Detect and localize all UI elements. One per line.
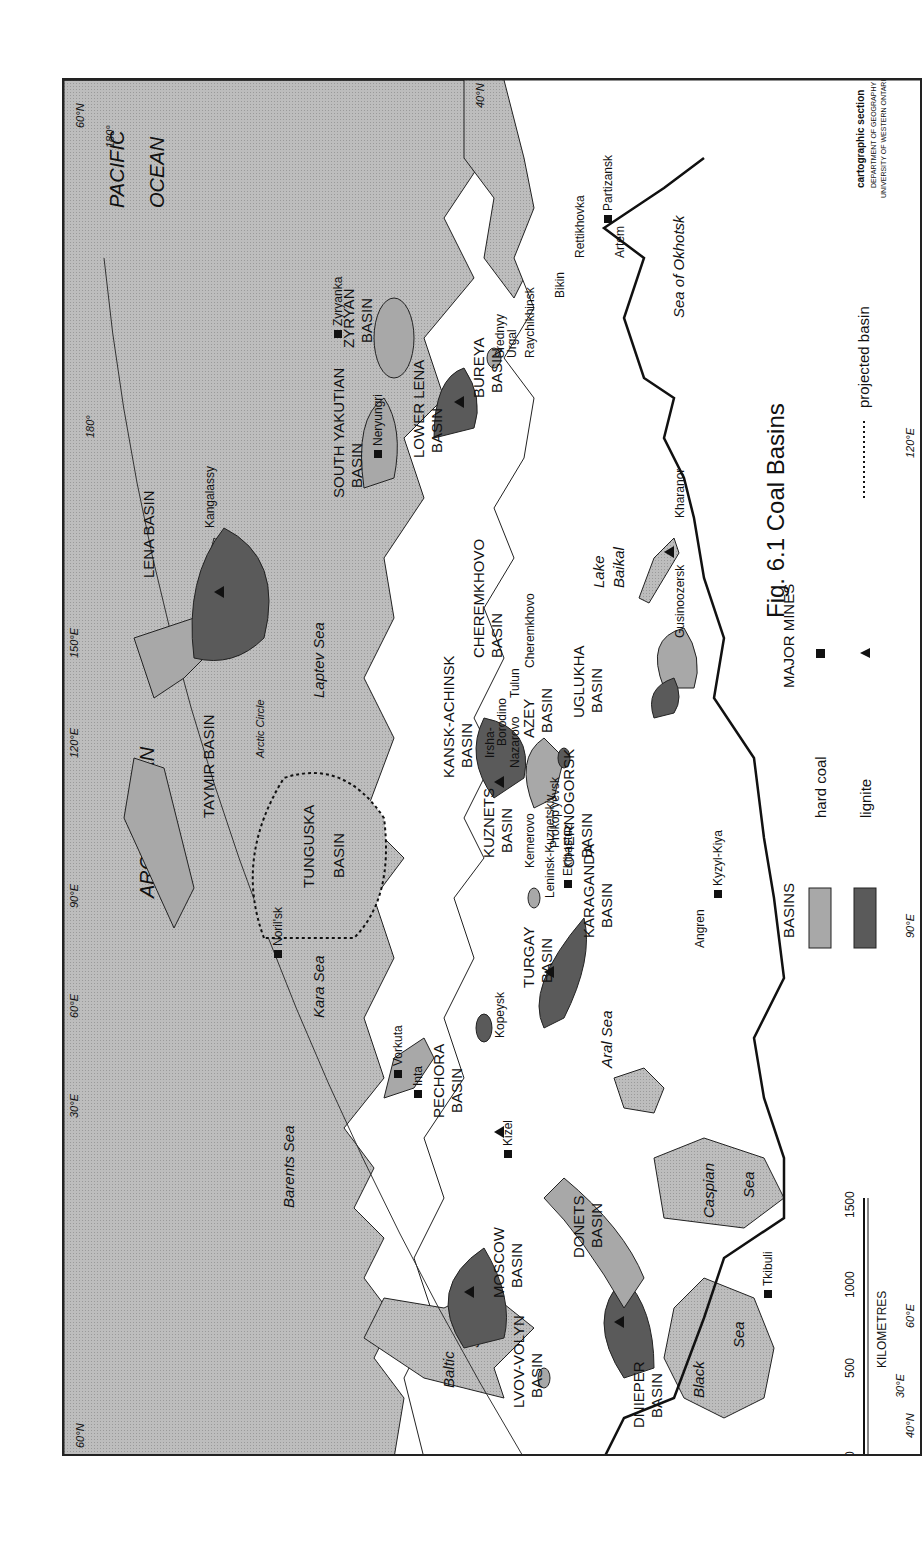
legend-basins-heading: BASINS (780, 883, 797, 938)
basin-label-lena: LENA BASIN (140, 490, 157, 578)
mine-ekibastuz: Ekibastuz (561, 824, 575, 876)
basin-label-kansk-2: BASIN (458, 723, 475, 768)
basin-label-cheremkhovo: CHEREMKHOVO (470, 539, 487, 658)
mine-artem: Artem (613, 226, 627, 258)
credit-line-1: cartographic section (855, 90, 866, 188)
mine-angren: Angren (693, 909, 707, 948)
legend-mines-heading: MAJOR MINES (780, 584, 797, 688)
map-canvas: PACIFIC OCEAN ARCTIC OCEAN Barents Sea K… (64, 80, 922, 1456)
credit-line-2: DEPARTMENT OF GEOGRAPHY (870, 81, 877, 188)
basin-label-uglukha-2: BASIN (588, 668, 605, 713)
baikal-label-2: Baikal (610, 546, 627, 588)
mine-prokopyevsk: Prokop'yevsk (548, 776, 562, 848)
baikal-label-1: Lake (590, 555, 607, 588)
basin-label-lower-lena-2: BASIN (428, 408, 445, 453)
mine-raychikhinsk: Raychikhinsk (523, 286, 537, 358)
credit-line-3: UNIVERSITY OF WESTERN ONTARIO (880, 80, 887, 198)
basin-label-tunguska: TUNGUSKA (300, 805, 317, 888)
okhotsk-label: Sea of Okhotsk (670, 214, 687, 318)
basin-label-chernogorsk-2: BASIN (578, 813, 595, 858)
mine-tulun: Tulun (508, 668, 522, 698)
mine-kopeysk: Kopeysk (493, 991, 507, 1038)
mine-inta: Inta (411, 1066, 425, 1086)
ocean-label: OCEAN (146, 136, 168, 208)
basin-label-donets: DONETS (570, 1195, 587, 1258)
scale-tick-1000: 1000 (843, 1271, 857, 1298)
scale-unit: KILOMETRES (875, 1291, 889, 1368)
basin-label-kuznets: KUZNETS (480, 788, 497, 858)
black-sea-label-2: Sea (730, 1321, 747, 1348)
legend-hard-coal-label: hard coal (812, 756, 829, 818)
mine-gusinoozersk: Gusinoozersk (673, 564, 687, 638)
basin-label-zyryan-2: BASIN (358, 298, 375, 343)
legend-lignite-label: lignite (857, 779, 874, 818)
basin-label-moscow: MOSCOW (490, 1226, 507, 1298)
basin-label-dnieper: DNIEPER (630, 1361, 647, 1428)
mine-kharanor: Kharanor (673, 469, 687, 518)
mine-cheremkhovo: Cheremkhovo (523, 593, 537, 668)
legend-swatch-lignite (854, 888, 876, 948)
mine-kangalassy: Kangalassy (203, 466, 217, 528)
basin-label-pechora: PECHORA (430, 1044, 447, 1118)
mine-kyzyl-kiya: Kyzyl-Kiya (711, 830, 725, 886)
caspian-label-1: Caspian (700, 1163, 717, 1218)
legend-swatch-hard-coal (809, 888, 831, 948)
lon-30-label-south: 30°E (894, 1373, 906, 1398)
lon-60-label-south: 60°E (904, 1303, 916, 1328)
basin-label-lvov-2: BASIN (528, 1353, 545, 1398)
basin-label-south-yakutian: SOUTH YAKUTIAN (330, 368, 347, 498)
legend-square-icon (816, 649, 825, 658)
lat-40-label-east: 40°N (474, 83, 486, 108)
lon-90-label-south: 90°E (904, 913, 916, 938)
map-frame: PACIFIC OCEAN ARCTIC OCEAN Barents Sea K… (62, 78, 922, 1456)
barents-sea-label: Barents Sea (280, 1125, 297, 1208)
basin-label-south-yakutian-2: BASIN (348, 443, 365, 488)
black-sea-label-1: Black (690, 1360, 707, 1398)
kara-sea-label: Kara Sea (310, 955, 327, 1018)
basin-label-azey-2: BASIN (538, 688, 555, 733)
aral-sea-label: Aral Sea (598, 1010, 615, 1069)
basin-label-uglukha: UGLUKHA (570, 645, 587, 718)
lon-180-label-a: 180° (84, 415, 96, 438)
mine-bikin: Bikin (553, 272, 567, 298)
mine-urgal: Urgal (505, 329, 519, 358)
mine-rettikhovka: Rettikhovka (573, 195, 587, 258)
lat-40-label-west: 40°N (904, 1413, 916, 1438)
mine-kemerovo: Kemerovo (523, 813, 537, 868)
mine-norilsk: Noril'sk (271, 906, 285, 946)
credit-block: cartographic section DEPARTMENT OF GEOGR… (855, 80, 887, 198)
basin-label-donets-2: BASIN (588, 1203, 605, 1248)
mine-zyryanka: Zyryanka (331, 276, 345, 326)
basin-label-kuznets-2: BASIN (498, 808, 515, 853)
basin-label-turgay: TURGAY (520, 927, 537, 988)
caspian-label-2: Sea (740, 1171, 757, 1198)
mine-neryungri: Neryungri (371, 394, 385, 446)
basin-label-bureya: BUREYA (470, 337, 487, 398)
basin-label-moscow-2: BASIN (508, 1243, 525, 1288)
mine-nazarovo: Nazarovo (508, 716, 522, 768)
lon-90-label-north: 90°E (68, 883, 80, 908)
basin-label-taymir: TAYMIR BASIN (200, 714, 217, 818)
baltic-label-1: Baltic (440, 1351, 457, 1388)
lat-60-label-west: 60°N (74, 1423, 86, 1448)
mine-tkibuli: Tkibuli (761, 1251, 775, 1286)
basin-label-cheremkhovo-2: BASIN (488, 613, 505, 658)
lat-60-label-east: 60°N (74, 103, 86, 128)
laptev-sea-label: Laptev Sea (310, 622, 327, 698)
scale-tick-1500: 1500 (843, 1191, 857, 1218)
basin-label-tunguska-2: BASIN (330, 833, 347, 878)
lon-120-label-south: 120°E (904, 427, 916, 458)
scale-tick-0: 0 (843, 1451, 857, 1456)
lon-60-label-north: 60°E (68, 993, 80, 1018)
basin-label-dnieper-2: BASIN (648, 1373, 665, 1418)
basin-label-azey: AZEY (520, 699, 537, 738)
lon-150-label-north: 150°E (68, 627, 80, 658)
basin-label-kansk: KANSK-ACHINSK (440, 655, 457, 778)
arctic-circle-label: Arctic Circle (254, 699, 266, 759)
lon-120-label-north: 120°E (68, 727, 80, 758)
basin-label-karaganda-2: BASIN (598, 883, 615, 928)
basin-label-lower-lena: LOWER LENA (410, 360, 427, 458)
lon-30-label-north: 30°E (68, 1093, 80, 1118)
basin-label-lvov: LVOV-VOLYN (510, 1315, 527, 1408)
mine-partizansk: Partizansk (601, 154, 615, 211)
